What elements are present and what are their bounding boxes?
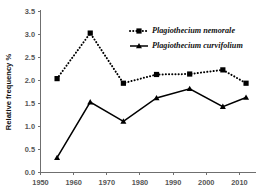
- y-tick-label: 2.5: [25, 53, 35, 62]
- marker-square: [88, 30, 93, 35]
- y-axis-ticks: 0.00.51.01.52.02.53.03.5: [25, 7, 41, 177]
- marker-square: [136, 28, 141, 33]
- legend-item: Plagiothecium curvifolium: [130, 41, 243, 50]
- marker-square: [154, 72, 159, 77]
- marker-square: [220, 67, 225, 72]
- x-tick-label: 1950: [32, 178, 48, 187]
- y-tick-label: 0.5: [25, 145, 35, 154]
- marker-square: [121, 81, 126, 86]
- legend-item: Plagiothecium nemorale: [130, 26, 235, 35]
- y-tick-label: 0.0: [25, 168, 35, 177]
- series-line: [57, 89, 246, 158]
- data-series: [54, 30, 248, 85]
- marker-square: [54, 76, 59, 81]
- x-tick-label: 1990: [165, 178, 181, 187]
- x-tick-label: 1960: [65, 178, 81, 187]
- legend-label: Plagiothecium curvifolium: [152, 41, 243, 50]
- y-tick-label: 3.0: [25, 30, 35, 39]
- x-tick-label: 1970: [99, 178, 115, 187]
- y-tick-label: 2.0: [25, 76, 35, 85]
- data-series-layer: [54, 30, 249, 160]
- y-tick-label: 1.0: [25, 122, 35, 131]
- x-tick-label: 2010: [231, 178, 247, 187]
- x-tick-label: 1980: [132, 178, 148, 187]
- marker-triangle: [87, 99, 93, 104]
- y-tick-label: 3.5: [25, 7, 35, 16]
- y-tick-label: 1.5: [25, 99, 35, 108]
- marker-square: [187, 71, 192, 76]
- chart-container: Relative frequency % 0.00.51.01.52.02.53…: [0, 0, 262, 193]
- marker-triangle: [187, 86, 193, 91]
- y-axis-title-text: Relative frequency %: [4, 54, 13, 131]
- y-axis-title: Relative frequency %: [4, 54, 13, 131]
- x-tick-label: 2000: [198, 178, 214, 187]
- line-chart: Relative frequency % 0.00.51.01.52.02.53…: [0, 0, 262, 193]
- marker-triangle: [243, 94, 249, 99]
- x-axis-ticks: 1950196019701980199020002010: [32, 172, 247, 187]
- chart-legend: Plagiothecium nemoralePlagiothecium curv…: [130, 26, 243, 50]
- marker-square: [243, 81, 248, 86]
- data-series: [54, 86, 249, 160]
- legend-label: Plagiothecium nemorale: [152, 26, 235, 35]
